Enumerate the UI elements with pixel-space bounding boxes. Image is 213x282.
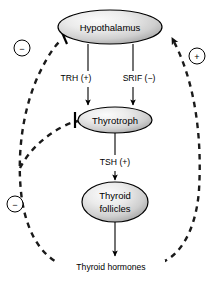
node-thyroid-follicles[interactable]: Thyroid follicles bbox=[82, 182, 148, 222]
node-thyrotroph[interactable]: Thyrotroph bbox=[78, 107, 152, 133]
edge-label-srif: SRIF (−) bbox=[123, 73, 156, 83]
feedback-path-negative-thyrotroph bbox=[20, 121, 78, 168]
sign-marker-minus-lower-left: − bbox=[7, 196, 23, 212]
sign-plus-upper-right-symbol: + bbox=[194, 52, 199, 62]
node-hypothalamus-label: Hypothalamus bbox=[80, 22, 141, 33]
sign-marker-plus-upper-right: + bbox=[189, 48, 205, 64]
node-hypothalamus[interactable]: Hypothalamus bbox=[58, 10, 162, 44]
edge-label-tsh: TSH (+) bbox=[100, 157, 130, 167]
output-label-thyroid-hormones: Thyroid hormones bbox=[76, 262, 145, 272]
node-thyrotroph-label: Thyrotroph bbox=[92, 115, 138, 126]
thyroid-feedback-diagram: Hypothalamus Thyrotroph Thyroid follicle… bbox=[0, 0, 213, 282]
sign-minus-upper-left-symbol: − bbox=[19, 44, 24, 54]
diagram-canvas: Hypothalamus Thyrotroph Thyroid follicle… bbox=[0, 0, 213, 282]
node-thyroid-follicles-label-line2: follicles bbox=[99, 203, 130, 214]
sign-minus-lower-left-symbol: − bbox=[12, 200, 17, 210]
sign-marker-minus-upper-left: − bbox=[14, 40, 30, 56]
node-thyroid-follicles-label-line1: Thyroid bbox=[99, 190, 131, 201]
edge-label-trh: TRH (+) bbox=[61, 73, 92, 83]
